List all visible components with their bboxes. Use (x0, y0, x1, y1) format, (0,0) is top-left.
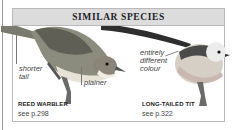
reed-warbler-page-ref[interactable]: see p.298 (18, 110, 49, 117)
plainer-annotation: plainer (84, 79, 107, 87)
similar-species-panel: SIMILAR SPECIES (12, 8, 225, 122)
entirely-different-colour-annotation: entirely different colour (140, 49, 167, 73)
shorter-tail-annotation: shorter tail (19, 65, 42, 81)
plainer-leader-line (81, 67, 82, 85)
panel-title: SIMILAR SPECIES (72, 12, 165, 22)
reed-warbler-name: REED WARBLER (18, 101, 68, 107)
shorter-tail-leader-line (16, 31, 17, 64)
long-tailed-tit-page-ref[interactable]: see p.322 (142, 110, 173, 117)
long-tailed-tit-name: LONG-TAILED TIT (142, 101, 195, 107)
panel-header: SIMILAR SPECIES (13, 9, 224, 26)
